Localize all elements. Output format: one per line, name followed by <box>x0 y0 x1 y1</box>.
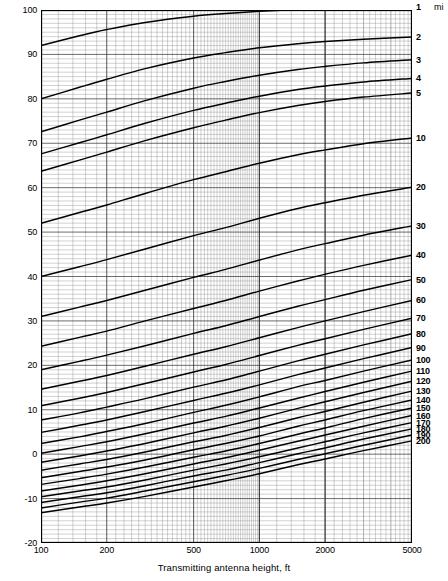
curve-label-3-mi: 3 <box>416 55 421 65</box>
curve-label-2-mi: 2 <box>416 32 421 42</box>
curve-label-20-mi: 20 <box>416 182 426 192</box>
right-axis-unit: mi <box>434 2 444 12</box>
y-tick-70: 70 <box>27 138 37 148</box>
curve-label-5-mi: 5 <box>416 88 421 98</box>
curve-label-40-mi: 40 <box>416 250 426 260</box>
curve-label-110-mi: 110 <box>416 366 430 376</box>
x-tick-1000: 1000 <box>250 545 269 555</box>
curve-label-120-mi: 120 <box>416 376 430 386</box>
curve-label-1-mi: 1 <box>416 2 421 12</box>
curve-label-80-mi: 80 <box>416 329 426 339</box>
curve-label-70-mi: 70 <box>416 313 426 323</box>
x-tick-500: 500 <box>186 545 200 555</box>
x-tick-2000: 2000 <box>315 545 334 555</box>
curve-label-90-mi: 90 <box>416 343 426 353</box>
y-tick--10: -10 <box>25 494 37 504</box>
y-tick-30: 30 <box>27 316 37 326</box>
y-tick-80: 80 <box>27 94 37 104</box>
x-tick-5000: 5000 <box>402 545 421 555</box>
groundwave-field-strength-chart: Field strength F, dB above 1 μ V/m for 1… <box>0 0 448 581</box>
y-tick-60: 60 <box>27 183 37 193</box>
curve-label-4-mi: 4 <box>416 73 421 83</box>
x-axis-title: Transmitting antenna height, ft <box>0 562 448 573</box>
x-tick-200: 200 <box>100 545 114 555</box>
curve-label-10-mi: 10 <box>416 133 426 143</box>
x-tick-100: 100 <box>34 545 48 555</box>
y-tick-0: 0 <box>32 449 37 459</box>
curve-label-200-mi: 200 <box>416 436 430 446</box>
y-axis-tick-labels: 1009080706050403020100-10-20 <box>0 10 37 543</box>
y-tick-20: 20 <box>27 360 37 370</box>
plot-canvas <box>41 10 412 543</box>
y-tick-100: 100 <box>23 5 37 15</box>
y-tick-50: 50 <box>27 227 37 237</box>
curve-label-100-mi: 100 <box>416 355 430 365</box>
y-tick-10: 10 <box>27 405 37 415</box>
curve-label-30-mi: 30 <box>416 221 426 231</box>
y-tick-40: 40 <box>27 272 37 282</box>
curve-distance-labels: 1mi2345102030405060708090100110120130140… <box>416 10 448 543</box>
curve-label-50-mi: 50 <box>416 275 426 285</box>
x-axis-tick-labels: 100200500100020005000 <box>41 545 412 561</box>
plot-area <box>41 10 412 543</box>
y-tick-90: 90 <box>27 49 37 59</box>
curve-label-60-mi: 60 <box>416 295 426 305</box>
